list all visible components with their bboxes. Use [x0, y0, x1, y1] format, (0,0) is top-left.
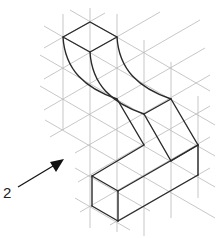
arrowhead-icon	[50, 159, 64, 172]
isometric-drawing	[0, 0, 222, 238]
view-arrow	[18, 159, 64, 187]
isometric-grid	[40, 8, 215, 236]
object-outline	[63, 22, 198, 221]
view-label: 2	[3, 184, 11, 201]
